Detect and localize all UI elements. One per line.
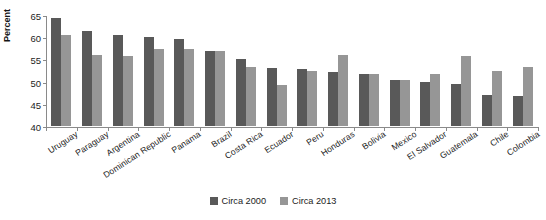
bar [523, 67, 533, 126]
bar-group [231, 59, 262, 126]
bar [92, 55, 102, 126]
bar-group [323, 55, 354, 126]
legend-swatch [280, 197, 288, 205]
bar-group [384, 80, 415, 126]
plot-area: 404550556065 [46, 16, 538, 127]
bar-group [169, 39, 200, 126]
bar-group [200, 51, 231, 126]
bar [430, 74, 440, 126]
bar [113, 35, 123, 126]
x-tick-label: Panama [170, 129, 203, 155]
bar [420, 82, 430, 126]
bar-group [77, 31, 108, 126]
bar [205, 51, 215, 126]
bar [461, 56, 471, 126]
bar [215, 51, 225, 126]
legend-item[interactable]: Circa 2000 [210, 196, 266, 206]
bar [492, 71, 502, 126]
bar [400, 80, 410, 126]
bar [82, 31, 92, 126]
legend-label: Circa 2000 [222, 196, 266, 206]
bar [184, 49, 194, 126]
bar [359, 74, 369, 126]
bar [277, 85, 287, 126]
legend-label: Circa 2013 [292, 196, 336, 206]
bar [482, 95, 492, 126]
chart-legend: Circa 2000Circa 2013 [0, 196, 546, 206]
bar [328, 72, 338, 126]
x-tick-label: Honduras [319, 129, 356, 158]
bar-group [108, 35, 139, 126]
x-tick-label: Ecuador [262, 129, 295, 155]
bar-chart: Percent 404550556065 UruguayParaguayArge… [0, 0, 546, 220]
bar [338, 55, 348, 126]
bar [369, 74, 379, 126]
bar-group [46, 18, 77, 126]
bar [123, 56, 133, 126]
bar-group [415, 74, 446, 126]
x-tick-mark [538, 127, 539, 131]
bar [513, 96, 523, 126]
bar-group [446, 56, 477, 126]
x-tick-label: Chile [488, 129, 510, 148]
bar [51, 18, 61, 126]
bar [236, 59, 246, 126]
bar [174, 39, 184, 126]
bar [61, 35, 71, 126]
bar-group [354, 74, 385, 126]
bar [307, 71, 317, 127]
bar [390, 80, 400, 126]
bar [267, 68, 277, 126]
bar [246, 67, 256, 126]
bar [154, 49, 164, 126]
chart-title [0, 0, 546, 4]
bar [451, 84, 461, 126]
legend-swatch [210, 197, 218, 205]
x-tick-label: Paraguay [74, 129, 111, 158]
bar-group [507, 67, 538, 126]
bar-group [138, 37, 169, 126]
y-axis-title: Percent [2, 9, 12, 42]
bar-group [292, 69, 323, 126]
bar [297, 69, 307, 126]
legend-item[interactable]: Circa 2013 [280, 196, 336, 206]
x-axis-labels: UruguayParaguayArgentinaDominican Republ… [46, 129, 538, 187]
x-tick-label: Peru [305, 129, 326, 147]
bar-group [477, 71, 508, 126]
bar-group [261, 68, 292, 126]
x-tick-label: Bolivia [360, 129, 387, 152]
bar [144, 37, 154, 126]
x-tick-label: Colombia [504, 129, 541, 158]
